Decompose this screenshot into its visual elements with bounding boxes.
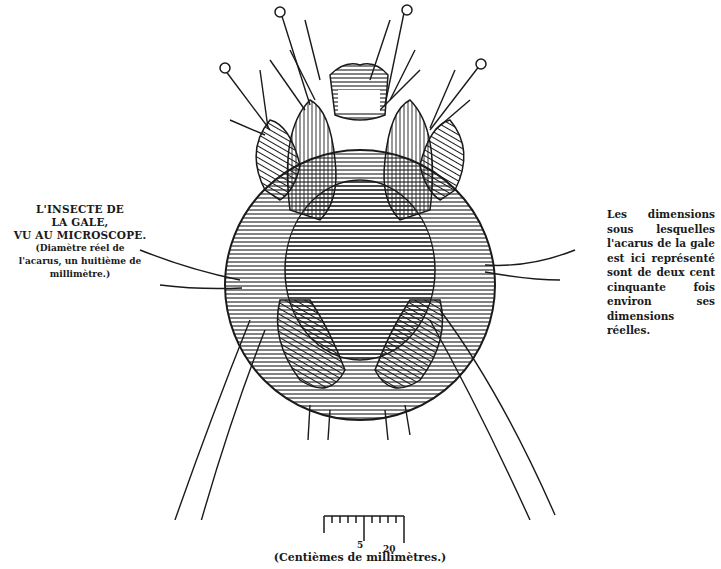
- right-caption: Les dimensions sous lesquelles l'acarus …: [607, 207, 715, 338]
- mite-illustration: [130, 0, 590, 520]
- scale-bar: [322, 513, 406, 543]
- scale-caption: (Centièmes de millimètres.): [250, 551, 470, 564]
- scale-tick-label: 5: [357, 540, 363, 550]
